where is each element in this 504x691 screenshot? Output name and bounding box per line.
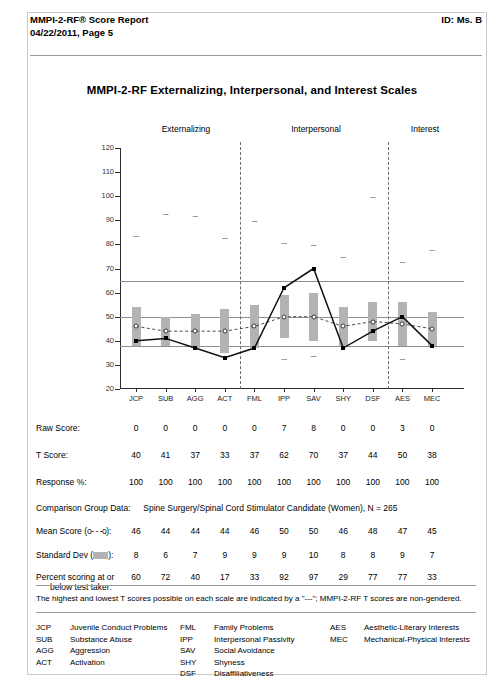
x-axis-tick (314, 388, 315, 392)
raw-score-cell: 3 (387, 423, 417, 433)
mean-score-cell: 44 (151, 526, 181, 536)
mean-score-point (370, 319, 375, 324)
chart-note: The highest and lowest T scores possible… (36, 594, 462, 603)
legend-abbr-fml: FML (180, 622, 214, 634)
legend-desc-ipp: Interpersonal Passivity (214, 634, 294, 646)
percent-at-or-below-cell: 40 (180, 572, 210, 582)
t-score-cell: 37 (180, 450, 210, 460)
header-divider (30, 55, 482, 56)
report-header: MMPI-2-RF® Score Report 04/22/2011, Page… (30, 14, 482, 48)
mean-score-cell: 46 (121, 526, 151, 536)
mean-score-cell: 45 (417, 526, 447, 536)
response-pct-cell: 100 (417, 477, 447, 487)
x-axis-tick (254, 388, 255, 392)
response-pct-cell: 100 (210, 477, 240, 487)
y-axis-tick-label: 40 (92, 336, 114, 345)
legend-desc-agg: Aggression (70, 645, 110, 657)
percent-at-or-below-cell: 60 (121, 572, 151, 582)
standard-dev-cell: 7 (417, 550, 447, 560)
legend-abbr-jcp: JCP (36, 622, 70, 634)
legend-desc-sav: Social Avoidance (214, 645, 275, 657)
percent-line2: below test taker: (36, 582, 114, 592)
legend-abbr-shy: SHY (180, 657, 214, 669)
response-pct-cell: 100 (239, 477, 269, 487)
mean-score-point (341, 324, 346, 329)
mean-score-cell: 46 (328, 526, 358, 536)
mean-score-cell: 44 (210, 526, 240, 536)
standard-dev-cell: 6 (151, 550, 181, 560)
t-score-cell: 37 (328, 450, 358, 460)
score-report-page: MMPI-2-RF® Score Report 04/22/2011, Page… (0, 0, 504, 691)
t-score-cell: 70 (299, 450, 329, 460)
x-axis-tick (343, 388, 344, 392)
percent-at-or-below-cell: 33 (417, 572, 447, 582)
mean-score-text: Mean Score ( (36, 526, 87, 536)
t-score-point (400, 315, 404, 319)
raw-score-label: Raw Score: (36, 423, 80, 433)
raw-score-cell: 0 (239, 423, 269, 433)
raw-score-cell: 0 (358, 423, 388, 433)
x-axis-tick (195, 388, 196, 392)
t-score-cell: 40 (121, 450, 151, 460)
standard-dev-cell: 8 (328, 550, 358, 560)
legend-abbr-aes: AES (330, 622, 364, 634)
chart-plot-area: ----------------------------------------… (120, 148, 464, 389)
mean-score-cell: 47 (387, 526, 417, 536)
y-axis-tick-label: 100 (92, 191, 114, 200)
y-axis-tick-label: 30 (92, 360, 114, 369)
t-score-point (164, 336, 168, 340)
mean-score-cell: 44 (180, 526, 210, 536)
response-pct-label: Response %: (36, 477, 87, 487)
response-pct-cell: 100 (180, 477, 210, 487)
x-axis-tick (225, 388, 226, 392)
standard-dev-cell: 7 (180, 550, 210, 560)
sd-text: Standard Dev ( (36, 550, 93, 560)
mean-score-text-end: ): (106, 526, 111, 536)
t-score-point (252, 346, 256, 350)
y-axis-tick-label: 50 (92, 312, 114, 321)
standard-dev-label: Standard Dev (): (36, 550, 113, 560)
percent-at-or-below-cell: 77 (358, 572, 388, 582)
comparison-group-value: Spine Surgery/Spinal Cord Stimulator Can… (143, 503, 397, 513)
chart-series-lines (120, 148, 464, 389)
group-header-interpersonal: Interpersonal (248, 124, 384, 134)
standard-dev-cell: 9 (387, 550, 417, 560)
mean-line-legend-icon: o- - -o (87, 526, 106, 536)
note-divider-top (36, 585, 476, 586)
raw-score-cell: 0 (121, 423, 151, 433)
legend-desc-dsf: Disaffiliativeness (214, 668, 273, 680)
x-axis-tick (373, 388, 374, 392)
percent-at-or-below-cell: 92 (269, 572, 299, 582)
x-axis-tick (166, 388, 167, 392)
legend-desc-jcp: Juvenile Conduct Problems (70, 622, 167, 634)
t-score-point (193, 346, 197, 350)
t-score-point (134, 339, 138, 343)
mean-score-point (400, 321, 405, 326)
t-score-label: T Score: (36, 450, 68, 460)
t-score-point (430, 344, 434, 348)
standard-dev-cell: 8 (121, 550, 151, 560)
y-axis-tick-label: 120 (92, 143, 114, 152)
standard-dev-cell: 8 (358, 550, 388, 560)
sd-text-end: ): (108, 550, 113, 560)
group-header-externalizing: Externalizing (118, 124, 254, 134)
mean-score-cell: 50 (269, 526, 299, 536)
mean-score-cell: 50 (299, 526, 329, 536)
t-score-cell: 37 (239, 450, 269, 460)
x-axis-tick (284, 388, 285, 392)
mean-score-point (311, 314, 316, 319)
y-axis-tick-label: 110 (92, 167, 114, 176)
raw-score-cell: 7 (269, 423, 299, 433)
report-id: ID: Ms. B (441, 14, 482, 25)
t-score-cell: 41 (151, 450, 181, 460)
legend-abbr-sub: SUB (36, 634, 70, 646)
mean-score-point (252, 324, 257, 329)
raw-score-cell: 0 (210, 423, 240, 433)
mean-score-point (193, 329, 198, 334)
comparison-group-label: Comparison Group Data: (36, 503, 131, 513)
t-score-point (282, 286, 286, 290)
report-title-line1: MMPI-2-RF® Score Report (30, 14, 148, 27)
legend-abbr-ipp: IPP (180, 634, 214, 646)
percent-at-or-below-cell: 77 (387, 572, 417, 582)
percent-at-or-below-cell: 72 (151, 572, 181, 582)
